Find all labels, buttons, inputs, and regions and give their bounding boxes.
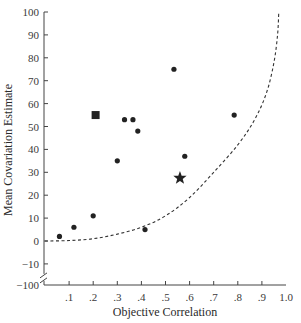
y-tick-label: 40: [28, 143, 40, 155]
data-point: [135, 128, 140, 133]
scatter-chart: 1009080706050403020100−10−100.1.2.3.4.5.…: [0, 0, 301, 323]
data-point: [71, 225, 76, 230]
x-tick-label: .2: [89, 291, 97, 303]
data-point: [115, 158, 120, 163]
y-tick-label: 0: [34, 235, 40, 247]
y-tick-label: 80: [28, 52, 40, 64]
y-tick-label: 50: [28, 121, 40, 133]
y-tick-label: 10: [28, 212, 40, 224]
x-tick-label: .8: [234, 291, 243, 303]
x-axis-title: Objective Correlation: [113, 305, 217, 319]
curve-layer: [45, 12, 279, 241]
data-point: [130, 117, 135, 122]
data-point-square: [92, 111, 100, 119]
data-point: [142, 227, 147, 232]
axes: 1009080706050403020100−10−100.1.2.3.4.5.…: [16, 6, 293, 303]
y-tick-label: 20: [28, 189, 40, 201]
y-tick-label: −10: [22, 258, 40, 270]
x-tick-label: 1.0: [279, 291, 293, 303]
data-point: [232, 112, 237, 117]
y-tick-label: 30: [28, 166, 40, 178]
data-point: [171, 67, 176, 72]
y-tick-label: 70: [28, 75, 40, 87]
x-tick-label: .5: [161, 291, 170, 303]
x-tick-label: .9: [258, 291, 267, 303]
data-point: [122, 117, 127, 122]
x-tick-label: .3: [113, 291, 122, 303]
y-tick-label: 90: [28, 29, 40, 41]
data-point: [182, 154, 187, 159]
y-tick-label: 60: [28, 98, 40, 110]
y-axis-title: Mean Covariation Estimate: [1, 84, 15, 216]
x-tick-label: .1: [65, 291, 73, 303]
y-tick-label: 100: [23, 6, 40, 18]
x-tick-label: .6: [185, 291, 194, 303]
boundary-curve: [45, 12, 279, 241]
x-tick-label: .7: [210, 291, 219, 303]
data-point: [91, 213, 96, 218]
points-layer: [57, 67, 237, 239]
y-tick-label: −100: [16, 279, 39, 291]
x-tick-label: .4: [137, 291, 146, 303]
data-point-star: [173, 171, 186, 184]
data-point: [57, 234, 62, 239]
